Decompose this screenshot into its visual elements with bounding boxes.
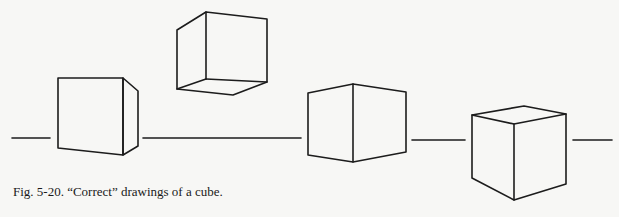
cube-1 [58, 78, 138, 155]
figure-caption: Fig. 5-20. “Correct” drawings of a cube. [13, 184, 223, 200]
cube-4 [472, 106, 566, 200]
cube-2 [177, 12, 267, 95]
cube-3 [308, 84, 406, 162]
horizon-line [12, 138, 612, 140]
